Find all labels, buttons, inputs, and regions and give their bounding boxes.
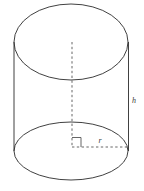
height-label: h (132, 96, 136, 105)
cylinder-bottom-face-ellipse (14, 122, 128, 180)
right-angle-marker (72, 138, 81, 148)
cylinder-top-face-ellipse (14, 4, 128, 80)
radius-label: r (98, 136, 102, 145)
cylinder-diagram-svg: h r (0, 0, 144, 191)
cylinder-figure-container: h r (0, 0, 144, 191)
